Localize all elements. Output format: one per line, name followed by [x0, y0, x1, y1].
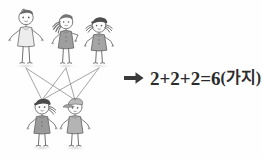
equation-expression: 2+2+2=6 — [150, 69, 220, 88]
illustration-canvas: 2+2+2=6 (가지) — [0, 0, 262, 159]
result-equation-row: 2+2+2=6 (가지) — [124, 64, 261, 92]
equation-unit: (가지) — [220, 70, 261, 86]
arrow-right-icon — [124, 71, 144, 85]
